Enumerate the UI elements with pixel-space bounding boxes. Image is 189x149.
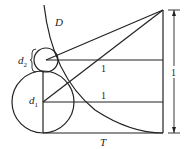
arrow-bottom [172,127,176,133]
label-d1: d1 [29,94,39,109]
label-t: T [100,136,107,148]
label-d2: d2 [18,54,28,69]
label-lower-segment: 1 [101,90,106,101]
label-height: 1 [171,67,176,78]
d2-brace [30,49,36,72]
diagonal-upper [46,10,163,60]
geometry-diagram: D d2 d1 1 1 1 T [0,0,189,149]
label-d-curve: D [54,16,63,28]
arrow-top [172,10,176,16]
label-upper-segment: 1 [101,63,106,74]
